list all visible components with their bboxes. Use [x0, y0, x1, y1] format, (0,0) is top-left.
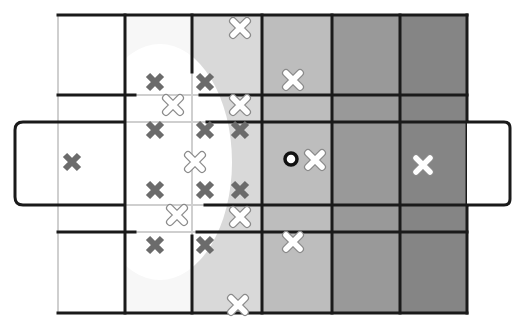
column-zone-6 [400, 15, 467, 313]
ball-icon [285, 153, 297, 165]
ball-marker [285, 153, 297, 165]
column-zone-5 [332, 15, 400, 313]
right-goal-box [467, 122, 510, 205]
field-svg [0, 0, 526, 336]
field-diagram [0, 0, 526, 336]
